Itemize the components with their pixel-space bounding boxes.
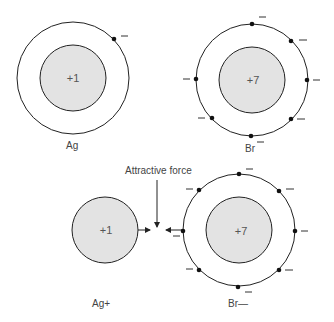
electron bbox=[112, 37, 117, 42]
br-nucleus-charge: +7 bbox=[247, 74, 260, 86]
attractive-force-label: Attractive force bbox=[125, 165, 192, 176]
ionic-bond-diagram bbox=[0, 0, 334, 322]
ag-ion-nucleus-charge: +1 bbox=[100, 224, 113, 236]
br-ion-nucleus-charge: +7 bbox=[235, 225, 248, 237]
ag-nucleus-charge: +1 bbox=[67, 72, 80, 84]
ag-label: Ag bbox=[66, 140, 78, 151]
ag-ion-label: Ag+ bbox=[92, 298, 110, 309]
br-ion-label: Br— bbox=[228, 298, 248, 309]
br-label: Br bbox=[245, 143, 255, 154]
